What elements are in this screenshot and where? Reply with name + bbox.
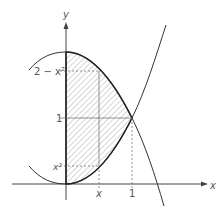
label-2-minus-x2: 2 − x²	[34, 66, 65, 77]
label-x-1: 1	[129, 188, 135, 199]
label-y-1: 1	[56, 113, 62, 124]
y-axis-arrow-icon	[64, 22, 69, 29]
region-between-curves-diagram: y x 2 − x² 1 x² x 1	[0, 0, 218, 210]
x-axis-label: x	[209, 180, 216, 191]
x-axis	[12, 182, 208, 187]
label-x2: x²	[52, 162, 62, 172]
y-axis-label: y	[62, 9, 70, 20]
x-axis-arrow-icon	[201, 182, 208, 187]
label-x-var: x	[95, 188, 102, 199]
